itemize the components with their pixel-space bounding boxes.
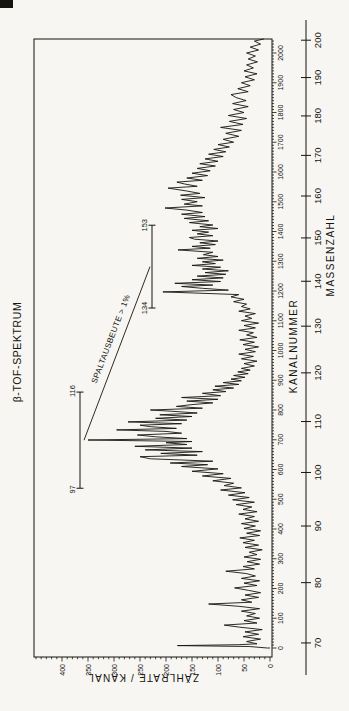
count-tick-label: 0	[267, 664, 274, 668]
channel-tick-label: 1100	[277, 313, 284, 328]
mass-tick-label: 110	[312, 414, 323, 429]
channel-tick-label: 100	[277, 612, 284, 624]
channel-axis-label: KANALNUMMER	[288, 299, 299, 393]
mass-tick-label: 120	[312, 365, 323, 381]
bracket-low-label: 97	[68, 485, 77, 493]
bracket-low-label: 134	[140, 302, 149, 315]
spectrum-trace	[88, 39, 270, 648]
mass-tick-label: 190	[312, 70, 323, 86]
chart-title: β-TOF-SPEKTRUM	[11, 302, 23, 403]
channel-tick-label: 1700	[277, 134, 284, 150]
channel-tick-label: 700	[277, 434, 284, 446]
channel-tick-label: 2000	[277, 45, 284, 61]
channel-tick-label: 1000	[277, 343, 284, 359]
mass-tick-label: 180	[312, 108, 323, 124]
channel-tick-label: 1200	[277, 283, 284, 299]
mass-tick-label: 160	[312, 188, 323, 204]
channel-tick-label: 900	[277, 374, 284, 386]
mass-tick-label: 140	[312, 273, 323, 289]
y-axis-label: ZÄHLRATE / KANAL	[87, 672, 199, 683]
mass-tick-label: 200	[312, 32, 323, 48]
channel-tick-label: 1300	[277, 253, 284, 269]
annotation-leader-line	[84, 267, 150, 441]
mass-tick-label: 150	[312, 230, 323, 246]
channel-tick-label: 1400	[277, 224, 284, 240]
rotated-chart-container: 0501001502002503003504000100200300400500…	[0, 0, 349, 711]
mass-axis-label: MASSENZAHL	[325, 214, 336, 297]
channel-tick-label: 0	[277, 646, 284, 650]
mass-tick-label: 170	[312, 147, 323, 163]
channel-tick-label: 600	[277, 464, 284, 476]
channel-tick-label: 300	[277, 553, 284, 565]
count-tick-label: 400	[59, 664, 66, 676]
mass-tick-label: 100	[312, 465, 323, 481]
channel-tick-label: 500	[277, 493, 284, 505]
count-tick-label: 100	[215, 664, 222, 676]
channel-tick-label: 1800	[277, 105, 284, 121]
channel-tick-label: 800	[277, 404, 284, 416]
mass-tick-label: 70	[312, 638, 323, 649]
mass-tick-label: 90	[312, 521, 323, 532]
bracket-high-label: 116	[68, 385, 77, 397]
bracket-high-label: 153	[140, 219, 149, 232]
channel-tick-label: 1900	[277, 75, 284, 91]
mass-tick-label: 80	[312, 577, 323, 588]
count-tick-label: 50	[241, 664, 248, 672]
scanned-spectrum-page: 0501001502002503003504000100200300400500…	[0, 0, 349, 711]
beta-tof-spectrum-chart: 0501001502002503003504000100200300400500…	[0, 0, 349, 711]
channel-tick-label: 200	[277, 583, 284, 595]
channel-tick-label: 1600	[277, 164, 284, 180]
channel-tick-label: 400	[277, 523, 284, 535]
channel-tick-label: 1500	[277, 194, 284, 210]
fission-yield-annotation: SPALTAUSBEUTE > 1%	[90, 293, 132, 385]
mass-tick-label: 130	[312, 318, 323, 334]
